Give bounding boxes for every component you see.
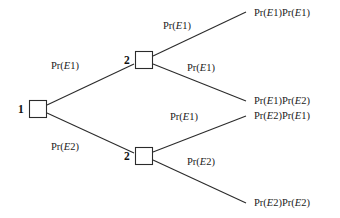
leaf-label-1: Pr(E1)Pr(E1) (254, 8, 310, 19)
edge-label-upper-bottom: Pr(E1) (187, 63, 215, 74)
leaf-label-3: Pr(E2)Pr(E1) (254, 111, 310, 122)
node-box-lower (136, 148, 153, 165)
edge-label-lower-top: Pr(E1) (170, 112, 198, 123)
edge-label-root-lower: Pr(E2) (51, 142, 79, 153)
edge-line-lower-top (153, 116, 246, 152)
node-label-upper: 2 (124, 55, 130, 67)
node-box-upper (136, 52, 153, 69)
node-box-root (30, 101, 47, 118)
leaf-label-2: Pr(E1)Pr(E2) (254, 96, 310, 107)
node-label-root: 1 (18, 104, 24, 116)
edge-label-lower-bottom: Pr(E2) (187, 157, 215, 168)
tree-edges-graphic (0, 0, 340, 218)
edge-label-root-upper: Pr(E1) (51, 61, 79, 72)
edge-line-upper-top (153, 12, 246, 56)
probability-tree-diagram: 1 2 2 Pr(E1) Pr(E2) Pr(E1) Pr(E1) Pr(E1)… (0, 0, 340, 218)
node-label-lower: 2 (124, 151, 130, 163)
edge-label-upper-top: Pr(E1) (163, 21, 191, 32)
leaf-label-4: Pr(E2)Pr(E2) (254, 198, 310, 209)
